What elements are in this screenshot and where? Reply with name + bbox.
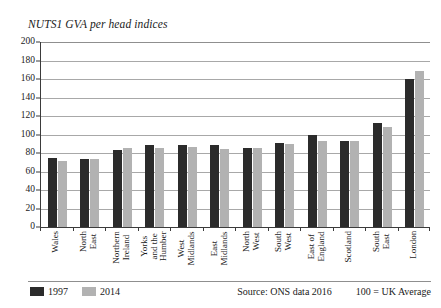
bar-group xyxy=(399,42,432,227)
bar-group xyxy=(204,42,237,227)
legend-label-2014: 2014 xyxy=(100,286,120,297)
x-label-slot: EastMidlands xyxy=(203,229,236,281)
y-tick-label-140: 140 xyxy=(21,93,35,103)
x-axis-label-south-west: SouthWest xyxy=(274,231,293,252)
bar-2014 xyxy=(285,144,294,227)
bar-1997 xyxy=(178,145,187,227)
chart-legend: 1997 2014 xyxy=(30,286,120,297)
x-axis-labels: WalesNorthEastNorthernIrelandYorksand th… xyxy=(40,229,430,281)
y-tick-label-160: 160 xyxy=(21,74,35,84)
x-axis-label-north-east: NorthEast xyxy=(79,231,98,252)
chart-title: NUTS1 GVA per head indices xyxy=(28,18,168,30)
bar-group xyxy=(41,42,74,227)
y-tick-label-180: 180 xyxy=(21,56,35,66)
bar-2014 xyxy=(415,71,424,227)
bar-2014 xyxy=(90,159,99,227)
bar-2014 xyxy=(383,127,392,227)
y-tick-label-120: 120 xyxy=(21,111,35,121)
bar-1997 xyxy=(80,159,89,227)
bar-group xyxy=(139,42,172,227)
plot-area: 200180160140120100806040200 xyxy=(40,42,430,227)
y-tick-label-100: 100 xyxy=(21,130,35,140)
x-axis-label-east-of-england: East ofEngland xyxy=(307,231,326,261)
x-axis-label-wales: Wales xyxy=(52,231,62,253)
x-label-slot: East ofEngland xyxy=(300,229,333,281)
bar-1997 xyxy=(243,148,252,227)
index-base-note: 100 = UK Average xyxy=(356,286,431,297)
x-axis-label-northern-ireland: NorthernIreland xyxy=(112,231,131,264)
x-label-slot: NorthEast xyxy=(73,229,106,281)
footer-notes: Source: ONS data 2016 100 = UK Average xyxy=(237,286,431,297)
y-tick-label-80: 80 xyxy=(26,148,36,158)
x-label-slot: SouthWest xyxy=(268,229,301,281)
bar-2014 xyxy=(350,141,359,227)
x-axis-label-east-midlands: EastMidlands xyxy=(209,231,228,265)
bar-group xyxy=(74,42,107,227)
bar-2014 xyxy=(253,148,262,227)
bar-2014 xyxy=(58,161,67,227)
bar-1997 xyxy=(340,141,349,227)
x-axis-label-london: London xyxy=(409,231,419,259)
source-note: Source: ONS data 2016 xyxy=(237,286,332,297)
bar-group xyxy=(366,42,399,227)
y-tick-label-200: 200 xyxy=(21,37,35,47)
x-label-slot: NorthWest xyxy=(235,229,268,281)
x-label-slot: SouthEast xyxy=(365,229,398,281)
legend-label-1997: 1997 xyxy=(48,286,68,297)
x-label-slot: London xyxy=(398,229,431,281)
bar-1997 xyxy=(405,79,414,227)
y-tick-label-40: 40 xyxy=(26,185,36,195)
bar-2014 xyxy=(220,149,229,227)
bar-group xyxy=(236,42,269,227)
legend-item-2014: 2014 xyxy=(82,286,120,297)
bar-1997 xyxy=(145,145,154,227)
x-axis-label-south-east: SouthEast xyxy=(372,231,391,252)
legend-item-1997: 1997 xyxy=(30,286,68,297)
bar-group xyxy=(334,42,367,227)
bar-1997 xyxy=(373,123,382,227)
bar-2014 xyxy=(155,148,164,227)
bar-group xyxy=(269,42,302,227)
bar-group xyxy=(301,42,334,227)
bar-1997 xyxy=(48,158,57,227)
bar-2014 xyxy=(188,147,197,227)
y-tick-label-0: 0 xyxy=(30,222,35,232)
x-label-slot: WestMidlands xyxy=(170,229,203,281)
legend-swatch-2014 xyxy=(82,287,96,296)
x-label-slot: Yorksand theHumber xyxy=(138,229,171,281)
bar-1997 xyxy=(308,135,317,228)
bar-1997 xyxy=(113,150,122,227)
x-label-slot: Wales xyxy=(40,229,73,281)
bar-series-container xyxy=(41,42,430,227)
bar-group xyxy=(171,42,204,227)
x-axis-label-scotland: Scotland xyxy=(344,231,354,263)
x-axis-label-yorks-and-the-humber: Yorksand theHumber xyxy=(140,231,169,261)
y-tick-label-60: 60 xyxy=(26,167,36,177)
y-tick-label-20: 20 xyxy=(26,204,36,214)
bar-group xyxy=(106,42,139,227)
x-label-slot: Scotland xyxy=(333,229,366,281)
bar-1997 xyxy=(275,143,284,227)
x-axis-label-north-west: NorthWest xyxy=(242,231,261,252)
bar-2014 xyxy=(123,148,132,227)
x-axis-label-west-midlands: WestMidlands xyxy=(177,231,196,265)
bar-2014 xyxy=(318,141,327,227)
bar-1997 xyxy=(210,145,219,227)
legend-swatch-1997 xyxy=(30,287,44,296)
chart-figure: NUTS1 GVA per head indices 2001801601401… xyxy=(0,0,441,308)
x-label-slot: NorthernIreland xyxy=(105,229,138,281)
footer-divider xyxy=(28,281,431,282)
